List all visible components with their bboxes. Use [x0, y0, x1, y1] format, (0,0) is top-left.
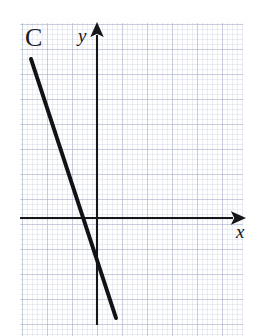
axes-group [20, 35, 233, 325]
x-axis-label: x [236, 222, 244, 241]
line-c [31, 59, 116, 318]
figure-label-c: C [25, 25, 42, 51]
y-axis-label: y [78, 26, 86, 45]
data-line-group [31, 59, 116, 318]
graph-figure: y x C [0, 0, 260, 336]
